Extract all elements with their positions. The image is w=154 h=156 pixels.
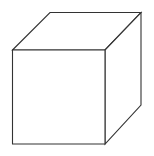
cube-drawing <box>0 0 154 156</box>
cube-front-face <box>13 50 106 144</box>
cube-diagram <box>0 0 154 156</box>
